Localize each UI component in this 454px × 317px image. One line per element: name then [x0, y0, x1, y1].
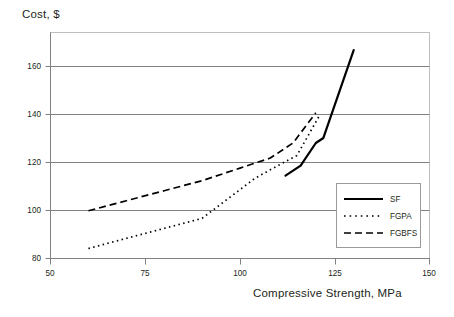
x-tick-label-125: 125 — [328, 269, 342, 278]
x-tick-marks — [51, 259, 430, 265]
y-tick-marks — [46, 67, 51, 259]
y-tick-label-160: 160 — [27, 62, 41, 71]
y-tick-label-120: 120 — [27, 158, 41, 167]
legend-label-sf: SF — [390, 195, 400, 204]
legend-label-fgpa: FGPA — [390, 212, 412, 221]
x-axis-title: Compressive Strength, MPa — [253, 287, 402, 299]
y-tick-label-100: 100 — [27, 206, 41, 215]
y-tick-label-140: 140 — [27, 110, 41, 119]
x-tick-label-150: 150 — [422, 269, 436, 278]
chart-container: Cost, $ — [0, 0, 454, 317]
x-tick-label-100: 100 — [233, 269, 247, 278]
x-tick-label-75: 75 — [140, 269, 150, 278]
plot-svg: 160 140 120 100 80 50 75 100 125 150 SF … — [0, 0, 454, 317]
legend-label-fgbfs: FGBFS — [390, 229, 418, 238]
y-tick-label-80: 80 — [32, 254, 42, 263]
x-tick-label-50: 50 — [45, 269, 55, 278]
legend: SF FGPA FGBFS — [337, 184, 421, 248]
